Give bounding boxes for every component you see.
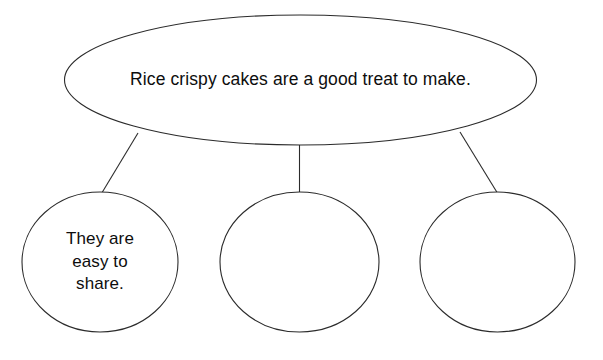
connector-line-main-to-branch-three [460, 132, 498, 194]
branch-three-circle[interactable] [420, 192, 575, 332]
branch-one-circle[interactable] [22, 192, 178, 332]
connector-line-main-to-branch-one [100, 133, 138, 196]
branch-two-circle[interactable] [220, 192, 379, 332]
main-idea-ellipse[interactable] [65, 15, 537, 145]
diagram-svg [0, 0, 603, 360]
diagram-canvas: Rice crispy cakes are a good treat to ma… [0, 0, 603, 360]
